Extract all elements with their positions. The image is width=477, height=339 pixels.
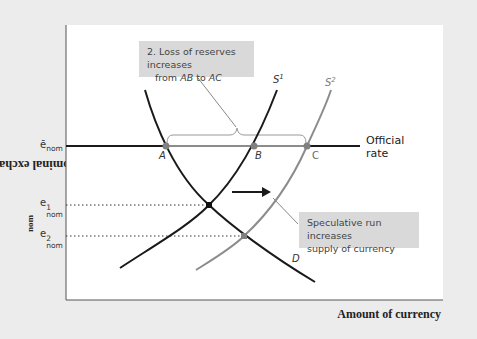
reserves-callout-ac: AC	[209, 72, 222, 83]
y-tick-e2-nom: e2nom	[40, 228, 63, 249]
point-a-label: A	[159, 150, 166, 161]
point-c-label: C	[312, 150, 319, 161]
s1-label-sup: 1	[279, 73, 283, 81]
plot-area	[66, 25, 443, 300]
y-tick-ebar-nom: ēnom	[40, 139, 63, 153]
point-b-marker	[251, 143, 258, 150]
point-c-marker	[304, 143, 311, 150]
point-b-label: B	[255, 150, 262, 161]
speculative-callout: Speculative run increases supply of curr…	[299, 212, 419, 248]
official-rate-label-line2: rate	[366, 147, 404, 160]
reserves-callout: 2. Loss of reserves increases from AB to…	[139, 41, 254, 77]
official-rate-label-line1: Official	[366, 134, 404, 147]
equilibrium-1-marker	[206, 202, 212, 208]
y-tick-e2-sub: nom	[46, 242, 63, 249]
y-tick-e1-nom: e1nom	[40, 197, 63, 218]
reserves-callout-ab: AB	[180, 72, 193, 83]
x-axis-label: Amount of currency	[337, 307, 441, 322]
official-rate-label: Official rate	[366, 134, 404, 160]
point-a-marker	[163, 143, 170, 150]
reserves-callout-from: from	[155, 72, 180, 83]
equilibrium-2-marker	[241, 233, 247, 239]
reserves-callout-line2: from AB to AC	[147, 71, 246, 84]
s2-label: S2	[325, 76, 336, 88]
y-tick-ebar-sub: nom	[46, 144, 63, 153]
reserves-callout-line1: 2. Loss of reserves increases	[147, 45, 246, 71]
s2-label-sup: 2	[331, 76, 335, 84]
reserves-callout-to: to	[193, 72, 209, 83]
demand-label: D	[292, 253, 300, 264]
diagram-frame: Nominal exchange rate, enom	[0, 0, 477, 339]
speculative-callout-line2: supply of currency	[307, 242, 411, 255]
s1-label: S1	[273, 73, 284, 85]
y-tick-e1-sub: nom	[46, 211, 63, 218]
speculative-callout-line1: Speculative run increases	[307, 216, 411, 242]
